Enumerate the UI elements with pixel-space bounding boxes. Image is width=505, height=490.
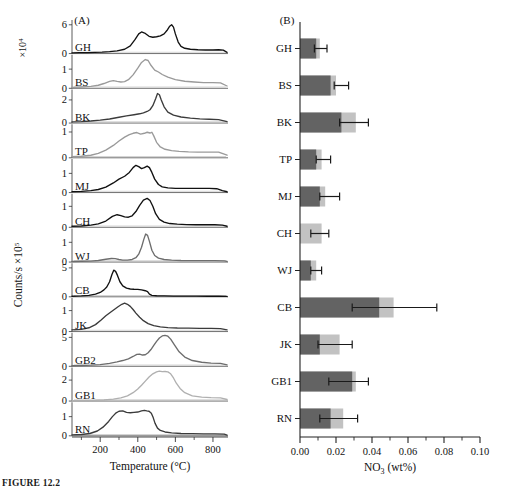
ytick-label-BK-1: 2 [62, 94, 67, 105]
ytick-label-CB-1: 5 [62, 262, 67, 273]
xtick-label-b-3: 0.06 [399, 446, 417, 457]
trace-RN [72, 410, 227, 435]
trace-CB [72, 270, 227, 296]
ytick-label-JK-1: 1 [62, 305, 67, 316]
ytick-label-GH-1: 6 [62, 19, 67, 30]
bar-dark-GH [300, 39, 316, 59]
ytick-label-MJ-0: 0 [62, 187, 67, 198]
ytick-label-MJ-1: 1 [62, 168, 67, 179]
ytick-label-RN-1: 1 [62, 411, 67, 422]
sample-label-GH: GH [75, 41, 91, 53]
xtick-label-b-0: 0.00 [291, 446, 309, 457]
trace-CH [72, 198, 227, 226]
xtick-label-a-3: 800 [205, 444, 221, 455]
bar-dark-JK [300, 335, 320, 355]
trace-TP [72, 132, 227, 157]
sample-label-WJ: WJ [75, 250, 90, 262]
ytick-label-b-RN: RN [277, 412, 292, 424]
bar-dark-WJ [300, 261, 311, 281]
xtick-label-b-5: 0.10 [471, 446, 489, 457]
ytick-label-WJ-1: 1 [62, 237, 67, 248]
ytick-label-b-WJ: WJ [277, 264, 292, 276]
trace-BK [72, 94, 227, 122]
xtick-label-a-0: 200 [92, 444, 108, 455]
ytick-label-b-CB: CB [277, 301, 292, 313]
trace-GH [72, 25, 227, 53]
xtick-label-a-2: 600 [167, 444, 183, 455]
ytick-label-TP-1: 1 [62, 126, 67, 137]
sample-label-CH: CH [75, 215, 90, 227]
sample-label-RN: RN [75, 423, 90, 435]
bar-dark-TP [300, 150, 316, 170]
ytick-label-b-CH: CH [277, 227, 292, 239]
sample-label-JK: JK [75, 319, 87, 331]
trace-JK [72, 303, 227, 330]
sample-label-BK: BK [75, 111, 90, 123]
panel-b-xlabel: NO3 (wt%) [364, 461, 416, 476]
bar-dark-BS [300, 76, 331, 96]
ytick-label-b-GH: GH [276, 42, 292, 54]
ytick-label-GB2-1: 5 [62, 332, 67, 343]
panel-a-ylabel: Counts/s ×105 [12, 242, 24, 307]
figure-caption: FIGURE 12.2 [2, 478, 60, 489]
figure-svg: (A)06GH01BS02BK01TP01MJ01CH01WJ05CB01JK0… [0, 0, 505, 490]
xtick-label-a-1: 400 [130, 444, 146, 455]
sample-label-CB: CB [75, 284, 90, 296]
ytick-label-GH-0: 0 [62, 48, 67, 59]
trace-WJ [72, 234, 227, 261]
ytick-label-b-BS: BS [279, 79, 292, 91]
trace-BS [72, 60, 227, 88]
panel-a-label: (A) [74, 14, 90, 27]
ytick-label-CH-0: 0 [62, 222, 67, 233]
ytick-label-BS-0: 0 [62, 83, 67, 94]
xtick-label-b-2: 0.04 [363, 446, 382, 457]
xtick-label-b-1: 0.02 [327, 446, 345, 457]
ytick-label-TP-0: 0 [62, 152, 67, 163]
trace-MJ [72, 165, 227, 191]
panel-a-top-exponent: ×104 [17, 38, 28, 58]
ytick-label-b-TP: TP [279, 153, 292, 165]
sample-label-MJ: MJ [75, 180, 90, 192]
figure-container: (A)06GH01BS02BK01TP01MJ01CH01WJ05CB01JK0… [0, 0, 505, 490]
ytick-label-GB1-1: 2 [62, 374, 67, 385]
sample-label-BS: BS [75, 76, 88, 88]
ytick-label-b-MJ: MJ [278, 190, 293, 202]
ytick-label-RN-0: 0 [62, 430, 67, 441]
ytick-label-GB1-0: 0 [62, 395, 67, 406]
xtick-label-b-4: 0.08 [435, 446, 453, 457]
ytick-label-CB-0: 0 [62, 291, 67, 302]
bar-dark-MJ [300, 187, 320, 207]
ytick-label-CH-1: 1 [62, 201, 67, 212]
ytick-label-b-GB1: GB1 [271, 375, 292, 387]
ytick-label-b-JK: JK [280, 338, 292, 350]
panel-a-xlabel: Temperature (°C) [110, 460, 191, 473]
ytick-label-b-BK: BK [277, 116, 292, 128]
sample-label-GB2: GB2 [75, 354, 96, 366]
bar-dark-BK [300, 113, 341, 133]
ytick-label-BS-1: 1 [62, 64, 67, 75]
panel-b-label: (B) [280, 14, 295, 27]
sample-label-TP: TP [75, 145, 88, 157]
sample-label-GB1: GB1 [75, 389, 96, 401]
ytick-label-GB2-0: 0 [62, 361, 67, 372]
